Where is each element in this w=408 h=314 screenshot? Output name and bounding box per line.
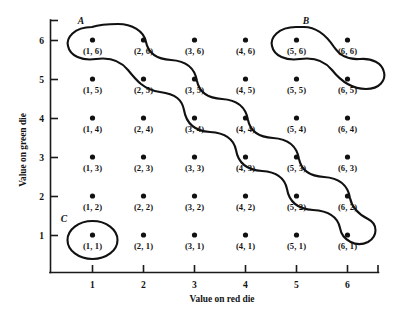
data-point-dot [243, 37, 248, 42]
data-point-dot [192, 193, 197, 198]
data-point-label: (6, 1) [338, 241, 357, 251]
y-tick-label-1: 1 [39, 230, 44, 241]
region-label-c: C [61, 213, 68, 224]
data-point-dot [345, 37, 350, 42]
data-point-label: (2, 5) [134, 85, 153, 95]
data-point-label: (1, 2) [83, 202, 102, 212]
data-point-dot [90, 193, 95, 198]
y-tick-label-3: 3 [39, 152, 44, 163]
x-tick-label-3: 3 [192, 279, 197, 290]
data-point-dot [90, 76, 95, 81]
region-label-a: A [77, 15, 84, 26]
x-axis-title: Value on red die [190, 294, 255, 304]
y-tick-label-6: 6 [39, 35, 44, 46]
data-point-label: (5, 5) [287, 85, 306, 95]
y-tick-label-2: 2 [39, 191, 44, 202]
data-point-label: (3, 1) [185, 241, 204, 251]
data-point-label: (4, 2) [236, 202, 255, 212]
data-point-dot [243, 154, 248, 159]
data-point-dot [345, 232, 350, 237]
data-point-dot [243, 232, 248, 237]
y-axis-title: Value on green die [18, 113, 28, 187]
data-point-label: (3, 5) [185, 85, 204, 95]
data-point-dot [294, 193, 299, 198]
data-point-label: (6, 5) [338, 85, 357, 95]
data-point-label: (4, 5) [236, 85, 255, 95]
data-point-dot [243, 193, 248, 198]
data-point-label: (3, 4) [185, 124, 204, 134]
data-point-label: (6, 3) [338, 163, 357, 173]
data-point-dot [294, 154, 299, 159]
region-label-b: B [302, 15, 310, 26]
data-point-label: (2, 1) [134, 241, 153, 251]
data-point-dot [345, 193, 350, 198]
data-point-label: (1, 3) [83, 163, 102, 173]
data-point-label: (3, 6) [185, 46, 204, 56]
data-point-dot [90, 37, 95, 42]
data-point-label: (1, 5) [83, 85, 102, 95]
data-point-dot [192, 232, 197, 237]
data-point-dot [294, 37, 299, 42]
data-point-label: (4, 6) [236, 46, 255, 56]
data-point-label: (5, 3) [287, 163, 306, 173]
data-point-dot [192, 154, 197, 159]
data-point-dot [243, 115, 248, 120]
data-point-dot [90, 115, 95, 120]
x-tick-label-6: 6 [345, 279, 350, 290]
data-point-dot [243, 76, 248, 81]
data-point-dot [90, 154, 95, 159]
data-point-label: (2, 4) [134, 124, 153, 134]
data-points-group [90, 37, 350, 237]
x-tick-labels: 1 2 3 4 5 6 [90, 279, 350, 290]
data-point-dot [141, 37, 146, 42]
data-point-label: (6, 4) [338, 124, 357, 134]
data-point-label: (6, 6) [338, 46, 357, 56]
data-point-dot [141, 154, 146, 159]
x-tick-label-4: 4 [243, 279, 248, 290]
data-point-dot [192, 76, 197, 81]
data-point-label: (3, 2) [185, 202, 204, 212]
x-tick-label-2: 2 [141, 279, 146, 290]
data-point-dot [192, 37, 197, 42]
y-tick-label-5: 5 [39, 74, 44, 85]
scatter-plot-canvas: 6 5 4 3 2 1 1 2 3 4 5 6 Value on red die… [0, 0, 408, 314]
data-point-label: (2, 3) [134, 163, 153, 173]
x-tick-label-5: 5 [294, 279, 299, 290]
data-point-label: (5, 6) [287, 46, 306, 56]
dice-sample-space-figure: 6 5 4 3 2 1 1 2 3 4 5 6 Value on red die… [0, 0, 408, 314]
data-point-label: (2, 2) [134, 202, 153, 212]
data-point-label: (6, 2) [338, 202, 357, 212]
data-point-dot [141, 232, 146, 237]
event-regions-group [68, 24, 385, 259]
data-point-dot [294, 115, 299, 120]
data-point-labels-group: (1, 6) (2, 6) (3, 6) (4, 6) (5, 6) (6, 6… [83, 46, 357, 251]
y-tick-labels: 6 5 4 3 2 1 [39, 35, 44, 241]
data-point-label: (5, 2) [287, 202, 306, 212]
data-point-dot [345, 115, 350, 120]
data-point-label: (4, 1) [236, 241, 255, 251]
data-point-label: (5, 4) [287, 124, 306, 134]
data-point-dot [141, 193, 146, 198]
data-point-label: (4, 4) [236, 124, 255, 134]
data-point-label: (5, 1) [287, 241, 306, 251]
region-a-outline [68, 24, 376, 244]
data-point-dot [345, 154, 350, 159]
region-b-outline [272, 27, 385, 89]
data-point-dot [192, 115, 197, 120]
data-point-label: (3, 3) [185, 163, 204, 173]
data-point-dot [294, 76, 299, 81]
x-tick-label-1: 1 [90, 279, 95, 290]
data-point-dot [90, 232, 95, 237]
data-point-label: (1, 1) [83, 241, 102, 251]
y-tick-label-4: 4 [39, 113, 44, 124]
data-point-label: (4, 3) [236, 163, 255, 173]
data-point-label: (1, 4) [83, 124, 102, 134]
data-point-label: (1, 6) [83, 46, 102, 56]
data-point-dot [141, 115, 146, 120]
data-point-dot [345, 76, 350, 81]
region-c-outline [68, 221, 118, 259]
data-point-label: (2, 6) [134, 46, 153, 56]
data-point-dot [141, 76, 146, 81]
data-point-dot [294, 232, 299, 237]
